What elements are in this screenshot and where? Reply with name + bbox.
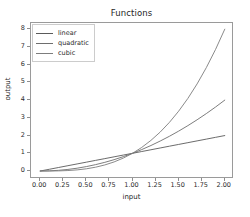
chart-legend: linearquadraticcubic <box>32 24 95 62</box>
x-tick-label: 1.50 <box>170 181 184 189</box>
series-line-quadratic <box>40 100 225 171</box>
y-tick-mark <box>27 64 30 65</box>
y-tick-label: 2 <box>9 131 25 139</box>
y-tick-mark <box>27 152 30 153</box>
legend-item-label: linear <box>58 28 76 38</box>
chart-figure: Functions 0.000.250.500.751.001.251.501.… <box>0 0 250 217</box>
y-tick-mark <box>27 46 30 47</box>
legend-item-quadratic[interactable]: quadratic <box>36 38 89 48</box>
y-tick-label: 6 <box>9 60 25 68</box>
y-tick-mark <box>27 135 30 136</box>
legend-line-icon <box>36 43 53 44</box>
legend-item-label: quadratic <box>58 38 89 48</box>
x-tick-label: 2.00 <box>217 181 231 189</box>
x-axis-label: input <box>30 193 233 201</box>
x-tick-label: 0.75 <box>101 181 115 189</box>
x-tick-label: 0.25 <box>55 181 69 189</box>
y-tick-label: 3 <box>9 113 25 121</box>
x-tick-label: 1.00 <box>124 181 138 189</box>
x-tick-label: 1.25 <box>147 181 161 189</box>
chart-title: Functions <box>30 8 233 18</box>
legend-item-cubic[interactable]: cubic <box>36 48 89 58</box>
legend-item-label: cubic <box>58 48 75 58</box>
y-tick-mark <box>27 81 30 82</box>
legend-item-linear[interactable]: linear <box>36 28 89 38</box>
legend-line-icon <box>36 53 53 54</box>
y-tick-label: 7 <box>9 42 25 50</box>
y-tick-label: 8 <box>9 24 25 32</box>
y-tick-mark <box>27 28 30 29</box>
x-tick-label: 1.75 <box>193 181 207 189</box>
y-tick-label: 0 <box>9 166 25 174</box>
y-tick-mark <box>27 117 30 118</box>
y-tick-label: 1 <box>9 148 25 156</box>
y-tick-mark <box>27 170 30 171</box>
x-tick-label: 0.50 <box>78 181 92 189</box>
legend-line-icon <box>36 33 53 34</box>
y-axis-label: output <box>4 69 12 109</box>
x-tick-label: 0.00 <box>32 181 46 189</box>
y-tick-mark <box>27 99 30 100</box>
